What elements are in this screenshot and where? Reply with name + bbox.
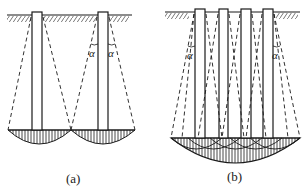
angle-alpha-a-left: α bbox=[89, 47, 95, 59]
stress-line-b-outer-right bbox=[274, 14, 300, 138]
stress-bulb-a2 bbox=[71, 130, 135, 144]
figure-b bbox=[165, 9, 300, 163]
angle-alpha-b-right: α bbox=[272, 49, 278, 61]
soil-hatch-a1 bbox=[7, 16, 31, 22]
stress-line-b-outer-left bbox=[171, 14, 194, 138]
angle-arc-a-right bbox=[108, 44, 115, 45]
soil-hatch-b1 bbox=[165, 13, 189, 19]
stress-line-a1-left bbox=[8, 17, 31, 130]
soil-hatch-a3 bbox=[109, 16, 129, 22]
pile-a1 bbox=[32, 12, 42, 130]
stress-bulb-a1 bbox=[8, 130, 71, 144]
pile-stress-diagram bbox=[0, 0, 308, 191]
angle-arc-a-left bbox=[91, 44, 98, 45]
soil-hatch-b2 bbox=[276, 13, 298, 19]
stress-line-a2-left bbox=[71, 17, 97, 130]
stress-line-a2-right bbox=[109, 17, 135, 130]
pile-b2 bbox=[219, 9, 228, 138]
angle-alpha-a-right: α bbox=[108, 47, 114, 59]
soil-hatch-a2 bbox=[43, 16, 97, 22]
pile-b1 bbox=[195, 9, 205, 138]
angle-alpha-b-left: α bbox=[187, 49, 193, 61]
pile-a2 bbox=[98, 12, 108, 130]
figure-b-caption: (b) bbox=[227, 169, 242, 185]
figure-a bbox=[7, 12, 135, 144]
angle-arc-b-left bbox=[188, 46, 195, 47]
stress-line-a1-right bbox=[43, 17, 71, 130]
pile-b4 bbox=[263, 9, 273, 138]
angle-arc-b-right bbox=[273, 46, 280, 47]
figure-a-caption: (a) bbox=[66, 171, 80, 187]
pile-b3 bbox=[241, 9, 251, 138]
